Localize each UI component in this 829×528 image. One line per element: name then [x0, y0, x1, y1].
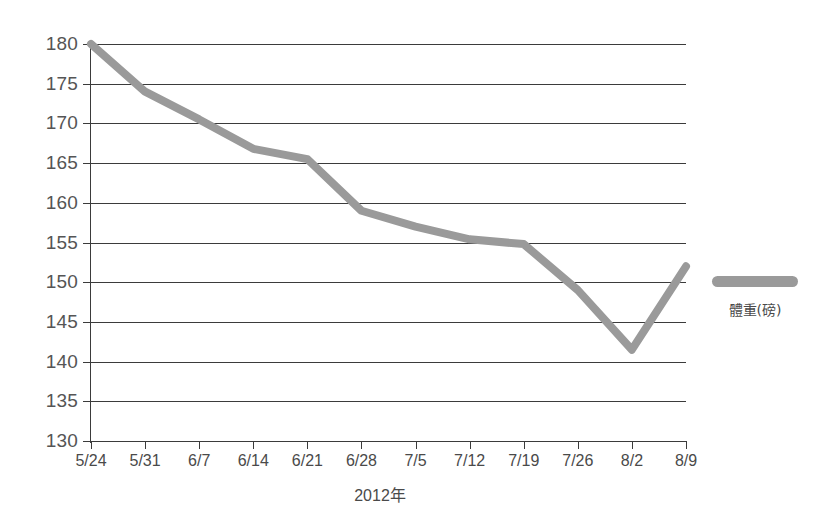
- gridline: [91, 84, 686, 85]
- y-axis-tick-label: 145: [32, 312, 78, 331]
- y-axis-tick: [83, 441, 91, 442]
- y-axis-tick-label: 150: [32, 272, 78, 291]
- x-axis-tick: [524, 441, 525, 449]
- y-axis-tick-label: 135: [32, 391, 78, 410]
- x-axis-tick-label: 6/28: [331, 452, 391, 470]
- gridline: [91, 243, 686, 244]
- x-axis-tick-label: 7/5: [386, 452, 446, 470]
- y-axis-tick-label: 170: [32, 113, 78, 132]
- y-axis-tick-label: 175: [32, 74, 78, 93]
- y-axis-tick-label: 160: [32, 193, 78, 212]
- x-axis-tick-label: 6/7: [169, 452, 229, 470]
- gridline: [91, 282, 686, 283]
- x-axis-tick: [199, 441, 200, 449]
- x-axis-tick-label: 7/12: [440, 452, 500, 470]
- y-axis-tick-label: 130: [32, 431, 78, 450]
- gridline: [91, 441, 686, 442]
- weight-line-chart: 130135140145150155160165170175180 5/245/…: [0, 0, 829, 528]
- y-axis-tick: [83, 401, 91, 402]
- y-axis-tick: [83, 203, 91, 204]
- legend-label: 體重(磅): [700, 299, 810, 319]
- gridline: [91, 123, 686, 124]
- x-axis-tick: [632, 441, 633, 449]
- y-axis-tick: [83, 362, 91, 363]
- x-axis-tick: [307, 441, 308, 449]
- x-axis-tick: [361, 441, 362, 449]
- y-axis-tick-label: 180: [32, 34, 78, 53]
- x-axis-tick-label: 7/19: [494, 452, 554, 470]
- y-axis-tick: [83, 243, 91, 244]
- x-axis-tick: [470, 441, 471, 449]
- gridline: [91, 362, 686, 363]
- x-axis-tick-label: 5/24: [61, 452, 121, 470]
- y-axis-labels: 130135140145150155160165170175180: [28, 0, 78, 528]
- y-axis-tick: [83, 84, 91, 85]
- y-axis-tick: [83, 282, 91, 283]
- y-axis-tick: [83, 123, 91, 124]
- y-axis-tick-label: 140: [32, 352, 78, 371]
- x-axis-tick-label: 7/26: [548, 452, 608, 470]
- x-axis-tick-label: 6/14: [223, 452, 283, 470]
- legend: 體重(磅): [700, 276, 810, 319]
- y-axis-tick: [83, 163, 91, 164]
- x-axis-tick: [686, 441, 687, 449]
- x-axis-tick: [578, 441, 579, 449]
- gridline: [91, 163, 686, 164]
- y-axis-tick-label: 155: [32, 233, 78, 252]
- gridline: [91, 401, 686, 402]
- y-axis-tick-label: 165: [32, 153, 78, 172]
- x-axis-tick: [145, 441, 146, 449]
- x-axis-title: 2012年: [0, 482, 760, 506]
- x-axis-tick-label: 8/2: [602, 452, 662, 470]
- weight-series-swatch: [712, 276, 798, 287]
- plot-area: [91, 44, 686, 441]
- x-axis-tick: [253, 441, 254, 449]
- x-axis-tick-label: 8/9: [656, 452, 716, 470]
- x-axis-tick: [91, 441, 92, 449]
- x-axis-tick-label: 6/21: [277, 452, 337, 470]
- y-axis-tick: [83, 44, 91, 45]
- gridline: [91, 322, 686, 323]
- gridline: [91, 44, 686, 45]
- x-axis-tick-label: 5/31: [115, 452, 175, 470]
- y-axis-tick: [83, 322, 91, 323]
- gridline: [91, 203, 686, 204]
- x-axis-tick: [416, 441, 417, 449]
